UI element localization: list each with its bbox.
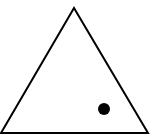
diagram-canvas [0, 0, 150, 138]
triangle-outline [1, 8, 148, 133]
triangle-diagram [0, 0, 150, 138]
dot-marker [98, 103, 110, 115]
